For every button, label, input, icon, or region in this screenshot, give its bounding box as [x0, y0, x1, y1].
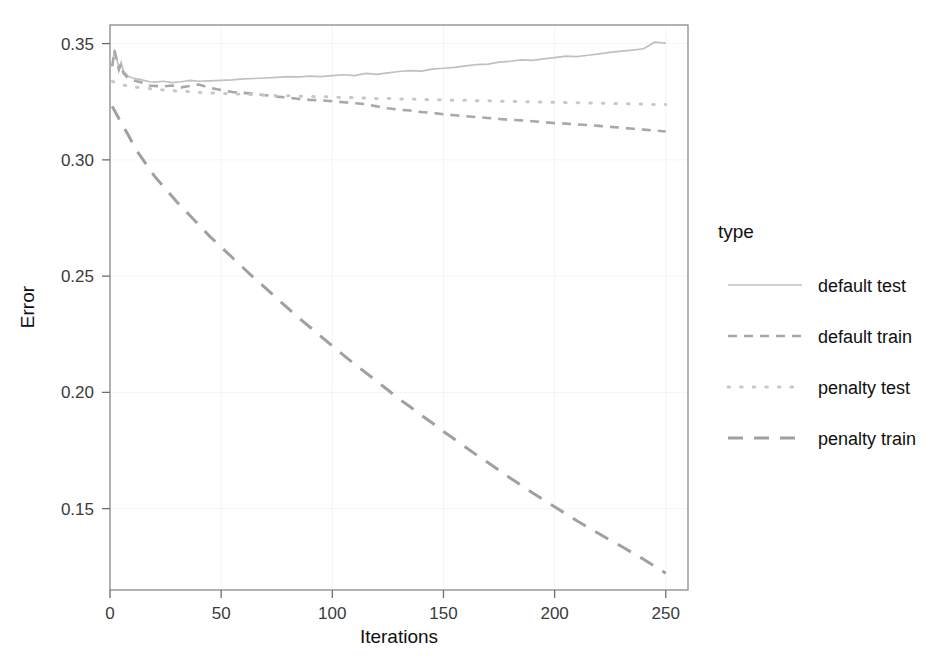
y-axis-ticks [102, 44, 110, 509]
y-tick-label: 0.35 [61, 35, 94, 54]
y-tick-label: 0.30 [61, 151, 94, 170]
x-tick-label: 150 [429, 604, 457, 623]
x-axis-title: Iterations [360, 626, 438, 647]
x-tick-label: 200 [540, 604, 568, 623]
figure-container: 050100150200250 0.150.200.250.300.35 Ite… [0, 0, 948, 671]
y-axis-title: Error [17, 285, 38, 328]
legend-label-penalty-test: penalty test [818, 378, 910, 398]
legend-label-penalty-train: penalty train [818, 429, 916, 449]
y-axis-tick-labels: 0.150.200.250.300.35 [61, 35, 94, 519]
plot-panel-background [110, 25, 688, 590]
y-tick-label: 0.15 [61, 500, 94, 519]
legend-group: default testdefault trainpenalty testpen… [728, 276, 916, 449]
chart-page: 050100150200250 0.150.200.250.300.35 Ite… [0, 0, 948, 671]
x-tick-label: 250 [652, 604, 680, 623]
y-tick-label: 0.20 [61, 383, 94, 402]
x-tick-label: 50 [212, 604, 231, 623]
x-tick-label: 0 [105, 604, 114, 623]
x-axis-ticks [110, 590, 666, 598]
legend-label-default-train: default train [818, 327, 912, 347]
y-tick-label: 0.25 [61, 267, 94, 286]
x-tick-label: 100 [318, 604, 346, 623]
legend-title: type [718, 221, 754, 242]
line-chart-svg: 050100150200250 0.150.200.250.300.35 Ite… [0, 0, 948, 671]
legend-label-default-test: default test [818, 276, 906, 296]
x-axis-tick-labels: 050100150200250 [105, 604, 680, 623]
